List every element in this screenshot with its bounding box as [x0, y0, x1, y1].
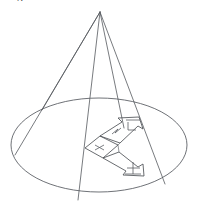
- generator-left-inner: [42, 12, 100, 110]
- tick-mark-zigzag: [112, 128, 121, 134]
- quad-edge-upper-link: [118, 143, 120, 145]
- parallelogram-left-cell: [85, 136, 118, 158]
- cone-diagram-svg: [0, 0, 199, 206]
- arrow-lower-right: [103, 152, 144, 176]
- generator-center: [78, 12, 100, 200]
- generator-right-inner: [100, 12, 124, 128]
- base-ellipse: [11, 98, 187, 192]
- inscribed-figure-group: [85, 117, 144, 176]
- quad-edge-lower-link: [118, 145, 119, 152]
- cross-mark-left: [95, 145, 104, 150]
- generator-lines-group: [15, 12, 165, 200]
- figure-container: g: [0, 0, 199, 206]
